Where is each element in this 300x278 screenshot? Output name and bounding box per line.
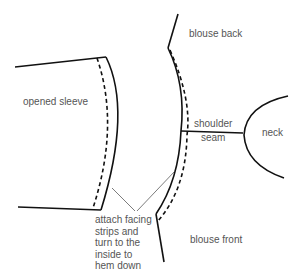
label-shoulder-seam-line1: shoulder bbox=[194, 118, 232, 130]
blouse-back-top-edge bbox=[168, 14, 178, 48]
annotation-leaders bbox=[112, 171, 175, 211]
sleeve-piece bbox=[15, 57, 118, 210]
sleeve-bottom-edge bbox=[18, 207, 101, 210]
label-blouse-back: blouse back bbox=[189, 28, 242, 40]
note-line-4: inside to bbox=[95, 249, 152, 261]
blouse-front-bottom-edge bbox=[156, 214, 164, 262]
sleeve-top-edge bbox=[15, 57, 106, 67]
label-shoulder-seam-line2: seam bbox=[201, 132, 225, 144]
label-neck: neck bbox=[262, 127, 283, 139]
note-line-5: hem down bbox=[95, 260, 152, 272]
note-line-3: turn to the bbox=[95, 237, 152, 249]
leader-to-sleeve bbox=[112, 188, 135, 211]
sleeve-facing-stitch-line bbox=[93, 58, 108, 208]
instruction-note: attach facing strips and turn to the ins… bbox=[95, 214, 152, 272]
blouse-facing-stitch-line bbox=[157, 50, 188, 222]
label-opened-sleeve: opened sleeve bbox=[23, 96, 88, 108]
note-line-2: strips and bbox=[95, 226, 152, 238]
label-blouse-front: blouse front bbox=[190, 234, 242, 246]
note-line-1: attach facing bbox=[95, 214, 152, 226]
blouse-piece bbox=[156, 14, 188, 262]
sewing-diagram: opened sleeve blouse back shoulder seam … bbox=[0, 0, 300, 278]
